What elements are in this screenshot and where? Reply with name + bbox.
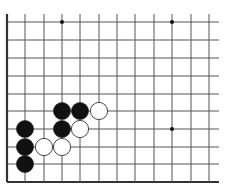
go-board — [0, 0, 230, 186]
black-stone[interactable] — [53, 120, 70, 137]
board-grid — [7, 14, 219, 182]
black-stone[interactable] — [16, 155, 33, 172]
white-stone[interactable] — [53, 138, 70, 155]
black-stone[interactable] — [53, 102, 70, 119]
black-stone[interactable] — [16, 120, 33, 137]
star-point-icon — [170, 127, 174, 131]
black-stone[interactable] — [71, 102, 88, 119]
star-point-icon — [170, 20, 174, 24]
black-stone[interactable] — [16, 138, 33, 155]
white-stone[interactable] — [35, 138, 52, 155]
white-stone[interactable] — [90, 102, 107, 119]
star-point-icon — [60, 20, 64, 24]
white-stone[interactable] — [71, 120, 88, 137]
